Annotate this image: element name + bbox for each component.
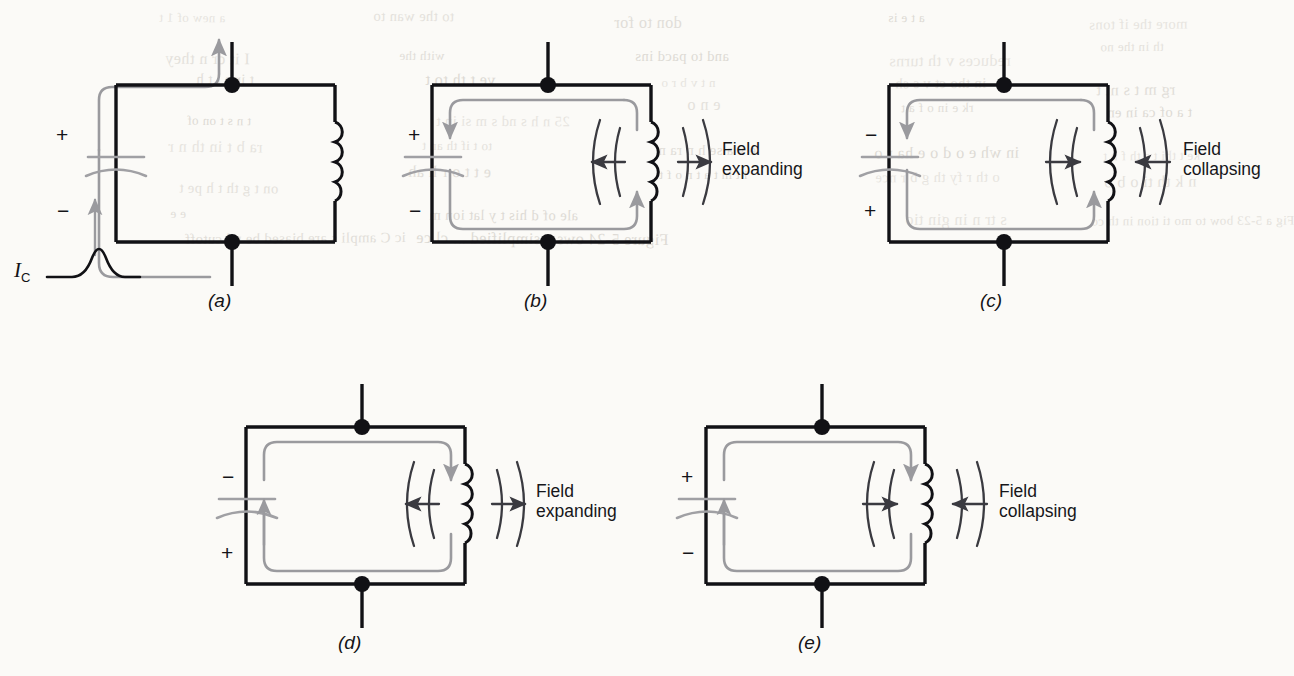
- ic-symbol: I: [14, 258, 21, 282]
- panel-b-field-label: Field expanding: [722, 139, 803, 180]
- panel-c-field-label: Field collapsing: [1183, 139, 1261, 180]
- panel-d-circuit: [217, 384, 525, 628]
- panel-e-current-loop: [724, 442, 911, 571]
- panel-e-caption: (e): [798, 632, 821, 654]
- ic-pulse-waveform: [47, 249, 140, 277]
- panel-c-caption: (c): [980, 290, 1002, 312]
- panel-a-top-node: [224, 77, 240, 93]
- panel-b-top-node: [540, 77, 556, 93]
- panel-a-caption: (a): [208, 290, 231, 312]
- panel-b-polarity-bottom: −: [409, 200, 421, 221]
- panel-d-top-node: [354, 419, 370, 435]
- panel-c-polarity-bottom: +: [864, 200, 876, 221]
- panel-c-polarity-top: −: [865, 124, 877, 145]
- panel-e-polarity-bottom: −: [682, 542, 694, 563]
- panel-c-circuit: [860, 42, 1170, 286]
- panel-a-polarity-bottom: −: [57, 200, 69, 221]
- panel-e-top-node: [814, 419, 830, 435]
- panel-d-polarity-top: −: [222, 466, 234, 487]
- panel-e-inductor: [925, 464, 932, 543]
- ic-source-label: IC: [14, 258, 30, 285]
- panel-c-current-loop: [907, 100, 1094, 229]
- panel-d-bottom-node: [354, 576, 370, 592]
- panel-c-inductor: [1108, 122, 1115, 201]
- panel-a-inductor: [335, 122, 342, 201]
- panel-d-inductor: [465, 464, 472, 543]
- panel-d-field-label: Field expanding: [536, 481, 617, 522]
- panel-a-bottom-node: [224, 234, 240, 250]
- ic-subscript: C: [21, 270, 30, 285]
- panel-b-caption: (b): [524, 290, 547, 312]
- panel-d-caption: (d): [338, 632, 361, 654]
- panel-c-top-node: [996, 77, 1012, 93]
- panel-b-polarity-top: +: [408, 124, 420, 145]
- panel-b-inductor: [651, 122, 658, 201]
- panel-b-bottom-node: [540, 234, 556, 250]
- panel-e-field-label: Field collapsing: [999, 481, 1077, 522]
- panel-d-current-loop: [264, 442, 451, 571]
- panel-d-polarity-bottom: +: [221, 542, 233, 563]
- panel-a-circuit: [47, 40, 342, 286]
- panel-b-circuit: [403, 42, 711, 286]
- panel-c-bottom-node: [996, 234, 1012, 250]
- panel-a-polarity-top: +: [56, 124, 68, 145]
- panel-e-polarity-top: +: [681, 466, 693, 487]
- panel-b-current-loop: [450, 100, 637, 229]
- panel-e-bottom-node: [814, 576, 830, 592]
- panel-e-circuit: [677, 384, 987, 628]
